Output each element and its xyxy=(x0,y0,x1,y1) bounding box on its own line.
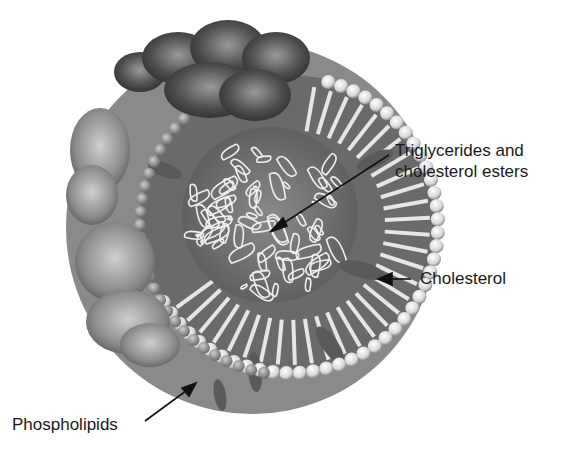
label-line-1: Triglycerides and xyxy=(395,140,528,161)
lipoprotein-particle xyxy=(66,20,445,414)
label-cholesterol: Cholesterol xyxy=(420,268,506,289)
lipoprotein-illustration xyxy=(0,0,574,464)
label-triglycerides-cholesterol-esters: Triglycerides and cholesterol esters xyxy=(395,140,528,182)
label-line-2: cholesterol esters xyxy=(395,161,528,182)
label-phospholipids: Phospholipids xyxy=(12,414,118,435)
